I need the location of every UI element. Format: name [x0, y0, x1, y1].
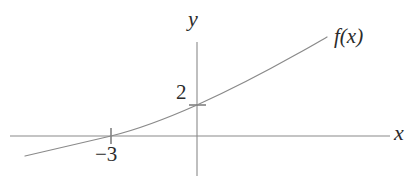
- x-axis-label: x: [394, 122, 404, 144]
- y-axis-label: y: [188, 8, 198, 30]
- y-intercept-tick-label: 2: [176, 82, 187, 103]
- function-graph-figure: y x f(x) 2 −3: [0, 0, 408, 191]
- function-curve-label: f(x): [334, 26, 363, 47]
- x-intercept-tick-label: −3: [95, 144, 117, 165]
